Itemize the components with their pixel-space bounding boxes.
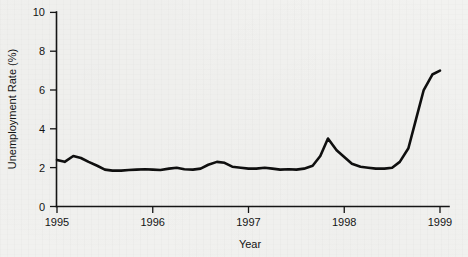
y-tick-label-2: 2 — [39, 162, 45, 174]
x-axis-tick-labels: 1995 1996 1997 1998 1999 — [45, 216, 452, 228]
y-tick-label-6: 6 — [39, 84, 45, 96]
y-axis-ticks — [50, 12, 57, 206]
y-tick-label-10: 10 — [33, 6, 45, 18]
x-tick-label-1997: 1997 — [236, 216, 260, 228]
x-axis-title: Year — [239, 238, 262, 250]
x-tick-label-1998: 1998 — [332, 216, 356, 228]
x-tick-label-1995: 1995 — [45, 216, 69, 228]
y-tick-label-4: 4 — [39, 123, 45, 135]
x-tick-label-1999: 1999 — [428, 216, 452, 228]
y-axis-tick-labels: 0 2 4 6 8 10 — [33, 6, 45, 212]
unemployment-line-chart: 0 2 4 6 8 10 1995 1996 1997 1998 1999 Ye… — [0, 0, 468, 257]
x-tick-label-1996: 1996 — [141, 216, 165, 228]
data-series-unemployment-rate — [57, 71, 440, 171]
y-tick-label-0: 0 — [39, 201, 45, 213]
chart-figure: 0 2 4 6 8 10 1995 1996 1997 1998 1999 Ye… — [0, 0, 468, 257]
y-axis-title: Unemployment Rate (%) — [6, 49, 18, 169]
y-tick-label-8: 8 — [39, 45, 45, 57]
x-axis-ticks — [57, 207, 440, 214]
